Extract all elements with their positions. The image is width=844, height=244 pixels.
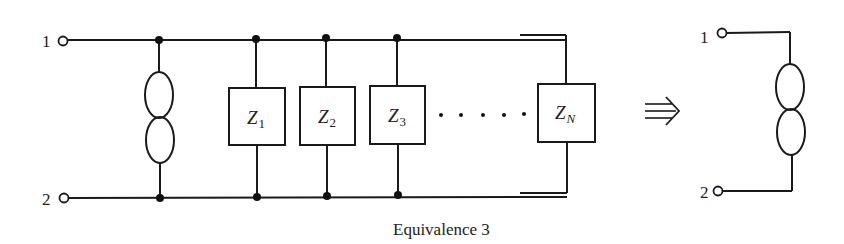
right-circuit: 1 2 xyxy=(700,28,805,202)
impedance-z1: Z1 xyxy=(229,40,285,197)
circuit-diagram: 1 2 Z1 Z2 xyxy=(0,0,844,244)
ellipsis-dots xyxy=(439,112,526,117)
left-circuit: 1 2 Z1 Z2 xyxy=(42,32,595,209)
inductor-double-loop-icon xyxy=(776,64,805,155)
impedance-z2: Z2 xyxy=(300,40,355,197)
impedance-zn: ZN xyxy=(520,35,595,193)
terminal-1-label: 1 xyxy=(42,32,51,51)
figure-caption: Equivalence 3 xyxy=(393,220,490,239)
impedance-z3: Z3 xyxy=(370,38,425,196)
terminal-2-circle-icon xyxy=(714,187,723,196)
terminal-1-circle-icon xyxy=(718,29,727,38)
top-wire xyxy=(726,32,790,33)
equivalence-arrow-icon xyxy=(645,97,679,125)
terminal-2-circle-icon xyxy=(60,194,69,203)
bottom-rail-wire xyxy=(68,197,567,198)
terminal-2-label: 2 xyxy=(42,190,51,209)
terminal-2-label: 2 xyxy=(700,183,709,202)
inductor-double-loop-icon xyxy=(145,40,174,198)
terminal-1-label: 1 xyxy=(700,28,709,47)
terminal-1-circle-icon xyxy=(59,37,68,46)
